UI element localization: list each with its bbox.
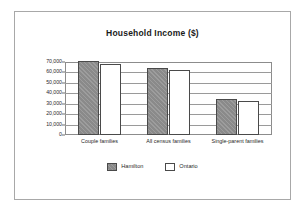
bar-group — [134, 62, 203, 135]
bar-group — [203, 62, 272, 135]
y-tick-label: 50,000 — [46, 80, 62, 85]
bars-layer — [65, 62, 272, 135]
bar-hamilton[interactable] — [78, 61, 99, 135]
legend-item-hamilton[interactable]: Hamilton — [107, 163, 143, 171]
chart-title: Household Income ($) — [14, 28, 291, 38]
legend-label: Ontario — [179, 164, 197, 170]
bar-ontario[interactable] — [100, 64, 121, 135]
y-tick-label: 10,000 — [46, 122, 62, 127]
x-tick-label: All census families — [146, 139, 190, 144]
y-tick-label: 20,000 — [46, 112, 62, 117]
chart-legend: HamiltonOntario — [14, 163, 291, 171]
legend-swatch-icon — [107, 163, 117, 171]
bar-hamilton[interactable] — [147, 68, 168, 135]
x-tick-label: Single-parent families — [212, 139, 264, 144]
y-tick-label: 30,000 — [46, 101, 62, 106]
x-tick-label: Couple families — [81, 139, 118, 144]
bar-ontario[interactable] — [238, 101, 259, 135]
bar-ontario[interactable] — [169, 70, 190, 135]
legend-item-ontario[interactable]: Ontario — [165, 163, 197, 171]
bar-group — [65, 62, 134, 135]
bar-hamilton[interactable] — [216, 99, 237, 135]
y-tick-label: 70,000 — [46, 59, 62, 64]
legend-swatch-icon — [165, 163, 175, 171]
y-tick-label: 40,000 — [46, 91, 62, 96]
y-tick-label: 0 — [59, 132, 62, 137]
plot-wrapper: 010,00020,00030,00040,00050,00060,00070,… — [65, 62, 272, 135]
chart-figure: Household Income ($) 010,00020,00030,000… — [0, 0, 306, 213]
y-tick-label: 60,000 — [46, 70, 62, 75]
legend-label: Hamilton — [121, 164, 143, 170]
